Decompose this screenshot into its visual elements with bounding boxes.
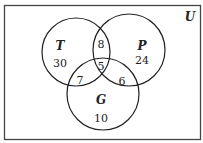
value-t-p: 8 <box>98 38 105 51</box>
value-p-only: 24 <box>135 54 149 67</box>
set-label-g: G <box>96 93 106 107</box>
value-t-only: 30 <box>53 57 67 70</box>
venn-diagram: U T 30 P 24 G 10 8 7 6 5 <box>0 0 203 143</box>
value-t-p-g: 5 <box>98 60 105 73</box>
value-g-only: 10 <box>94 112 108 125</box>
value-p-g: 6 <box>119 75 126 88</box>
set-label-p: P <box>136 39 147 53</box>
value-t-g: 7 <box>77 74 84 87</box>
universe-label: U <box>185 10 197 24</box>
set-label-t: T <box>56 39 66 53</box>
